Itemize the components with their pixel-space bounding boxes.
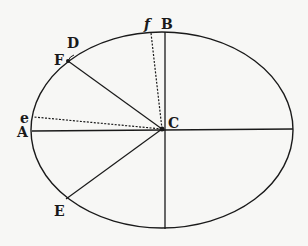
point-F [66, 59, 70, 63]
label-E: E [54, 203, 65, 219]
dashed-Ce [34, 117, 162, 129]
point-C [160, 127, 165, 132]
label-e: e [20, 110, 29, 126]
label-A: A [16, 124, 29, 140]
label-D: D [67, 35, 79, 51]
label-C: C [168, 115, 179, 131]
label-F: F [54, 52, 64, 68]
ellipse-diagram: A B C D E F e f [0, 0, 308, 246]
radius-CF [68, 61, 162, 129]
radius-CE [66, 129, 162, 199]
dashed-Cf [151, 33, 162, 129]
label-f: f [143, 16, 153, 32]
label-B: B [161, 16, 173, 32]
